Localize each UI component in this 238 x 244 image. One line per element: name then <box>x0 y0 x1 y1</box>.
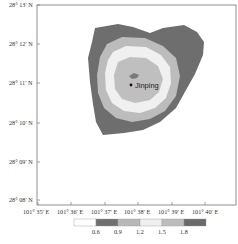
x-label-37: 101° 37′ E <box>91 208 117 215</box>
y-label-09: 28° 09′ N <box>9 158 33 165</box>
y-label-11: 28° 11′ N <box>9 79 33 86</box>
y-axis <box>37 5 40 200</box>
y-label-13: 28° 13′ N <box>9 1 33 8</box>
y-label-12: 28° 12′ N <box>9 40 33 47</box>
contour-layers <box>88 24 204 135</box>
x-label-39: 101° 39′ E <box>158 208 184 215</box>
jinping-marker-icon <box>130 84 133 87</box>
colorbar-tick-0: 0.6 <box>92 228 100 235</box>
place-label: Jinping <box>135 81 159 90</box>
colorbar-tick-4: 1.8 <box>180 228 188 235</box>
x-label-38: 101° 38′ E <box>124 208 150 215</box>
x-axis <box>38 202 205 205</box>
x-label-40: 101° 40′ E <box>192 208 218 215</box>
x-label-35: 101° 35′ E <box>23 208 49 215</box>
y-label-10: 28° 10′ N <box>9 119 33 126</box>
y-label-08: 28° 08′ N <box>9 196 33 203</box>
contour-map: Jinping 28° 13′ N 28° 12′ N 28° 11′ N 28… <box>0 0 238 244</box>
x-label-36: 101° 36′ E <box>57 208 83 215</box>
colorbar <box>74 219 206 226</box>
colorbar-tick-1: 0.9 <box>114 228 122 235</box>
colorbar-tick-2: 1.2 <box>136 228 144 235</box>
colorbar-tick-3: 1.5 <box>158 228 166 235</box>
